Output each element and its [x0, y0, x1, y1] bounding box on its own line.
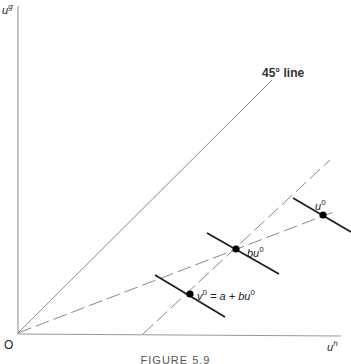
point-u0: [319, 211, 326, 218]
u0-label: u0: [315, 198, 326, 212]
bu0-label-base: bu: [247, 247, 259, 259]
line-45-label: 45° line: [262, 66, 304, 80]
x-axis-label-sup: h: [333, 339, 337, 348]
dashed-ray-origin: [18, 211, 336, 333]
v0-label: v0 = a + bu0: [197, 288, 255, 302]
v0-equation-sup: 0: [250, 288, 254, 297]
bu0-label-sup: 0: [259, 245, 263, 254]
v0-label-sup: 0: [203, 288, 207, 297]
origin-label: O: [4, 338, 13, 352]
bu0-label: bu0: [247, 245, 264, 259]
figure-caption: FIGURE 5.9: [0, 354, 351, 364]
x-axis-label: uh: [327, 339, 338, 353]
y-axis-label: ug: [2, 2, 13, 16]
v0-equation: = a + bu: [210, 290, 250, 302]
u0-label-sup: 0: [321, 198, 325, 207]
point-bu0: [232, 245, 239, 252]
point-v0: [186, 290, 193, 297]
x-axis: [18, 334, 341, 336]
y-axis-label-sup: g: [8, 2, 12, 11]
segment-bu0: [207, 233, 279, 274]
diagram-canvas: [0, 0, 351, 364]
